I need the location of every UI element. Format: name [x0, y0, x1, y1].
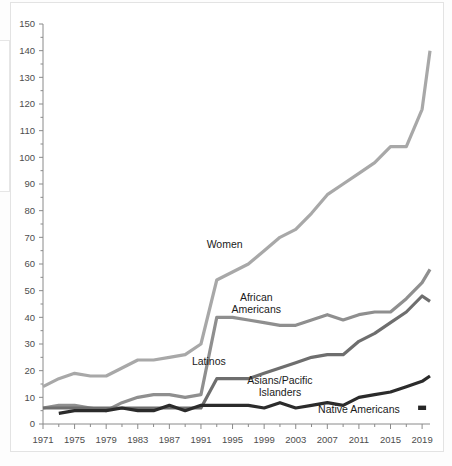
series-label: African: [240, 291, 273, 303]
y-tick-label: 60: [24, 258, 35, 269]
x-tick-label: 2015: [380, 434, 401, 445]
y-tick-label: 110: [20, 125, 35, 136]
x-tick-label: 1987: [159, 434, 180, 445]
series-label: Women: [207, 238, 243, 250]
x-tick-label: 1983: [127, 434, 148, 445]
series-label: Latinos: [192, 355, 226, 367]
series-label: Islanders: [259, 386, 302, 398]
y-tick-label: 90: [24, 178, 35, 189]
x-tick-label: 1971: [32, 434, 53, 445]
chart-svg: 0102030405060708090100110120130140150 19…: [0, 0, 452, 466]
y-tick-label: 20: [24, 365, 35, 376]
y-tick-label: 140: [19, 45, 35, 56]
x-axis: 1971197519791983198719911995199920032007…: [32, 424, 432, 445]
x-tick-label: 2003: [285, 434, 306, 445]
y-tick-label: 150: [19, 18, 35, 29]
y-tick-label: 10: [24, 392, 35, 403]
x-tick-label: 1979: [96, 434, 117, 445]
x-tick-label: 1999: [254, 434, 275, 445]
y-tick-label: 30: [24, 338, 35, 349]
native-americans-marker: [418, 406, 426, 410]
y-tick-label: 0: [30, 418, 35, 429]
series-line: [43, 269, 430, 410]
x-tick-label: 2019: [412, 434, 433, 445]
x-tick-label: 1991: [190, 434, 211, 445]
x-tick-label: 1975: [64, 434, 85, 445]
x-tick-label: 1995: [222, 434, 243, 445]
x-tick-label: 2007: [317, 434, 338, 445]
series-label: Americans: [231, 303, 281, 315]
y-tick-label: 50: [24, 285, 35, 296]
y-axis: 0102030405060708090100110120130140150: [19, 18, 43, 429]
y-tick-label: 100: [19, 152, 35, 163]
series-label: Asians/Pacific: [247, 374, 312, 386]
chart-page: 0102030405060708090100110120130140150 19…: [0, 0, 452, 466]
series-label: Native Americans: [318, 403, 400, 415]
y-tick-label: 40: [24, 312, 35, 323]
y-tick-label: 70: [24, 232, 35, 243]
x-tick-label: 2011: [349, 434, 369, 445]
y-tick-label: 130: [19, 72, 35, 83]
y-tick-label: 80: [24, 205, 35, 216]
series-lines: [43, 51, 430, 414]
line-chart: 0102030405060708090100110120130140150 19…: [0, 0, 452, 466]
y-tick-label: 120: [19, 98, 35, 109]
